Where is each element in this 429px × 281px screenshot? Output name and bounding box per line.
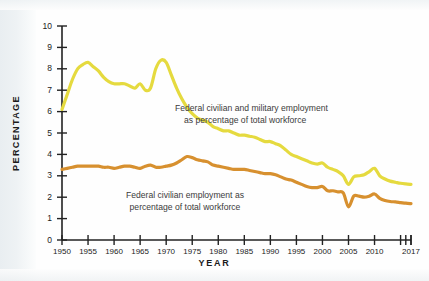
y-axis-tick-label: 3 — [16, 170, 52, 180]
y-axis-tick-label: 4 — [16, 149, 52, 159]
annotation-line-1: Federal civilian and military employment — [175, 103, 328, 113]
y-axis-tick-label: 6 — [16, 106, 52, 116]
y-axis-tick-label: 1 — [16, 213, 52, 223]
annotation-line-2: percentage of total workforce — [126, 202, 244, 214]
x-axis-title: YEAR — [0, 258, 429, 268]
y-axis-tick-label: 8 — [16, 63, 52, 73]
line-chart-plot — [0, 0, 429, 281]
y-axis-tick-label: 9 — [16, 42, 52, 52]
x-axis-tick-label: 2017 — [393, 247, 429, 256]
y-axis-tick-label: 7 — [16, 85, 52, 95]
y-axis-tick-label: 2 — [16, 192, 52, 202]
series-annotation-federal-civilian: Federal civilian employment as percentag… — [126, 190, 244, 213]
x-axis-tick-label: 2010 — [357, 247, 393, 256]
y-axis-tick-label: 10 — [16, 21, 52, 31]
annotation-line-2: as percentage of total workforce — [175, 115, 328, 127]
chart-series-lines — [62, 60, 411, 207]
y-axis-tick-label: 5 — [16, 128, 52, 138]
y-axis-tick-label: 0 — [16, 235, 52, 245]
chart-page: PERCENTAGE YEAR 012345678910 19501955196… — [0, 0, 429, 281]
series-annotation-federal-civilian-and-military: Federal civilian and military employment… — [175, 103, 328, 126]
annotation-line-1: Federal civilian employment as — [126, 190, 244, 200]
